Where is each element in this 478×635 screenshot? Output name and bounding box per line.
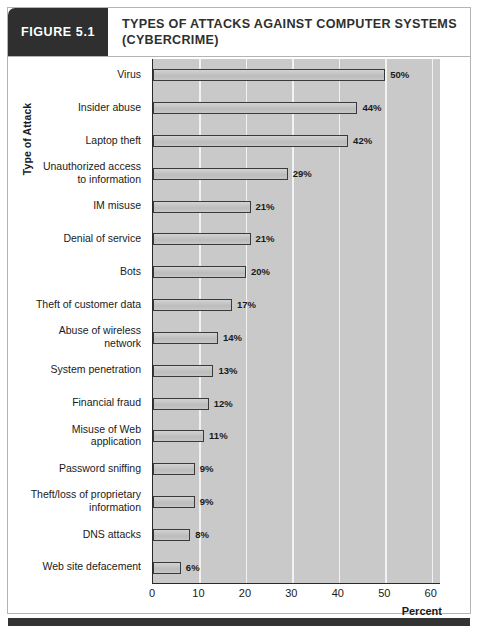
y-axis-category-label-line: Theft of customer data bbox=[0, 298, 141, 311]
y-axis-category-label-line: Password sniffing bbox=[0, 462, 141, 475]
x-axis-tick-label: 10 bbox=[178, 587, 218, 599]
y-axis-category-label: Laptop theft bbox=[0, 134, 149, 147]
y-axis-category-label-line: network bbox=[0, 337, 141, 350]
y-axis-category-label-line: System penetration bbox=[0, 363, 141, 376]
bar bbox=[153, 496, 195, 508]
bar-row: 42% bbox=[153, 135, 441, 147]
bar bbox=[153, 299, 232, 311]
bar-value-label: 21% bbox=[256, 232, 275, 245]
y-axis-category-label: Unauthorized accessto information bbox=[0, 160, 149, 185]
bar-row: 17% bbox=[153, 299, 441, 311]
bar-value-label: 50% bbox=[390, 68, 409, 81]
bar bbox=[153, 233, 251, 245]
y-axis-category-label-line: Financial fraud bbox=[0, 396, 141, 409]
bar-value-label: 8% bbox=[195, 528, 209, 541]
y-axis-category-label: Theft of customer data bbox=[0, 298, 149, 311]
bar-value-label: 21% bbox=[256, 200, 275, 213]
y-axis-category-label: Abuse of wirelessnetwork bbox=[0, 324, 149, 349]
bar-row: 6% bbox=[153, 562, 441, 574]
y-axis-category-label: Virus bbox=[0, 68, 149, 81]
x-axis-tick-label: 40 bbox=[318, 587, 358, 599]
bar-value-label: 44% bbox=[362, 101, 381, 114]
y-axis-category-label: System penetration bbox=[0, 363, 149, 376]
x-axis-tick-label: 60 bbox=[411, 587, 451, 599]
bar-value-label: 11% bbox=[209, 429, 228, 442]
bar bbox=[153, 430, 204, 442]
plot-area: VirusInsider abuseLaptop theftUnauthoriz… bbox=[152, 59, 440, 584]
y-axis-category-label-line: to information bbox=[0, 173, 141, 186]
bar bbox=[153, 529, 190, 541]
y-axis-category-label-line: Virus bbox=[0, 68, 141, 81]
y-axis-category-label-line: Abuse of wireless bbox=[0, 324, 141, 337]
figure-bottom-rule bbox=[8, 618, 470, 626]
bar-row: 9% bbox=[153, 496, 441, 508]
y-axis-category-label-line: Unauthorized access bbox=[0, 160, 141, 173]
bar-row: 21% bbox=[153, 201, 441, 213]
y-axis-category-label: Web site defacement bbox=[0, 560, 149, 573]
figure-title-line-2: (CYBERCRIME) bbox=[122, 32, 462, 48]
x-axis-tick-label: 20 bbox=[225, 587, 265, 599]
chart-area: Type of Attack VirusInsider abuseLaptop … bbox=[8, 57, 470, 613]
y-axis-category-label-line: application bbox=[0, 435, 141, 448]
y-axis-category-label-line: Web site defacement bbox=[0, 560, 141, 573]
bar-row: 20% bbox=[153, 266, 441, 278]
y-axis-category-label-line: Bots bbox=[0, 265, 141, 278]
bar bbox=[153, 332, 218, 344]
y-axis-category-label-line: Insider abuse bbox=[0, 101, 141, 114]
figure-container: FIGURE 5.1 TYPES OF ATTACKS AGAINST COMP… bbox=[0, 0, 478, 635]
y-axis-category-label: Bots bbox=[0, 265, 149, 278]
bar-value-label: 9% bbox=[200, 495, 214, 508]
bar-value-label: 6% bbox=[186, 561, 200, 574]
bar bbox=[153, 102, 357, 114]
bar-value-label: 9% bbox=[200, 462, 214, 475]
y-axis-category-label: Password sniffing bbox=[0, 462, 149, 475]
bar-value-label: 42% bbox=[353, 134, 372, 147]
bar bbox=[153, 463, 195, 475]
bar-value-label: 14% bbox=[223, 331, 242, 344]
y-axis-category-label: Denial of service bbox=[0, 232, 149, 245]
bar-row: 13% bbox=[153, 365, 441, 377]
bar-value-label: 29% bbox=[293, 167, 312, 180]
bar-value-label: 17% bbox=[237, 298, 256, 311]
figure-title: TYPES OF ATTACKS AGAINST COMPUTER SYSTEM… bbox=[108, 8, 470, 56]
bar bbox=[153, 562, 181, 574]
bar-row: 14% bbox=[153, 332, 441, 344]
bar-row: 21% bbox=[153, 233, 441, 245]
bar-value-label: 12% bbox=[214, 397, 233, 410]
bar-row: 50% bbox=[153, 69, 441, 81]
bar bbox=[153, 135, 348, 147]
bar bbox=[153, 398, 209, 410]
bar-row: 29% bbox=[153, 168, 441, 180]
y-axis-category-label: Misuse of Webapplication bbox=[0, 423, 149, 448]
x-axis-title: Percent bbox=[402, 605, 442, 617]
bar bbox=[153, 69, 385, 81]
y-axis-category-label: Insider abuse bbox=[0, 101, 149, 114]
figure-number-badge: FIGURE 5.1 bbox=[8, 8, 108, 56]
y-axis-category-label-line: IM misuse bbox=[0, 199, 141, 212]
bar-row: 44% bbox=[153, 102, 441, 114]
y-axis-category-label: IM misuse bbox=[0, 199, 149, 212]
bar bbox=[153, 266, 246, 278]
figure-title-line-1: TYPES OF ATTACKS AGAINST COMPUTER SYSTEM… bbox=[122, 17, 457, 31]
bar-row: 11% bbox=[153, 430, 441, 442]
bar bbox=[153, 168, 288, 180]
y-axis-category-label-line: Denial of service bbox=[0, 232, 141, 245]
bar bbox=[153, 201, 251, 213]
bar-row: 9% bbox=[153, 463, 441, 475]
y-axis-category-label: Financial fraud bbox=[0, 396, 149, 409]
x-axis-tick-label: 50 bbox=[364, 587, 404, 599]
y-axis-category-label: DNS attacks bbox=[0, 528, 149, 541]
y-axis-category-label-line: Misuse of Web bbox=[0, 423, 141, 436]
figure-header: FIGURE 5.1 TYPES OF ATTACKS AGAINST COMP… bbox=[7, 7, 471, 57]
x-axis-tick-label: 30 bbox=[271, 587, 311, 599]
bar-row: 8% bbox=[153, 529, 441, 541]
y-axis-category-label-line: information bbox=[0, 501, 141, 514]
y-axis-category-label: Theft/loss of proprietaryinformation bbox=[0, 488, 149, 513]
y-axis-category-label-line: Theft/loss of proprietary bbox=[0, 488, 141, 501]
bar-value-label: 13% bbox=[218, 364, 237, 377]
bar bbox=[153, 365, 213, 377]
x-axis-tick-label: 0 bbox=[132, 587, 172, 599]
bar-row: 12% bbox=[153, 398, 441, 410]
y-axis-category-label-line: Laptop theft bbox=[0, 134, 141, 147]
y-axis-category-label-line: DNS attacks bbox=[0, 528, 141, 541]
